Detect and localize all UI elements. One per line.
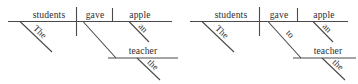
right-modifier-the-word: The bbox=[213, 23, 230, 40]
left-modifier-the-word: The bbox=[31, 23, 48, 40]
left-indirect-object-diagonal bbox=[83, 22, 116, 59]
left-verb-word: gave bbox=[86, 9, 105, 20]
right-verb-word: gave bbox=[270, 9, 289, 20]
sentence-diagram-figure: students gave apple teacher The an the bbox=[0, 0, 358, 84]
right-subject-word: students bbox=[215, 9, 248, 20]
right-prepositional-object-word: teacher bbox=[314, 45, 343, 56]
left-direct-object-word: apple bbox=[129, 9, 151, 20]
left-indirect-object-word: teacher bbox=[129, 45, 158, 56]
diagram-left: students gave apple teacher The an the bbox=[8, 7, 178, 80]
right-preposition-diagonal bbox=[268, 22, 301, 59]
diagram-right: students gave apple teacher to The an th… bbox=[190, 7, 356, 80]
right-preposition-word: to bbox=[284, 28, 297, 40]
diagram-canvas: students gave apple teacher The an the bbox=[0, 0, 358, 84]
left-modifier-the2-word: the bbox=[145, 57, 160, 72]
right-modifier-the2-word: the bbox=[330, 57, 345, 72]
right-direct-object-word: apple bbox=[313, 9, 335, 20]
right-modifier-an-word: an bbox=[320, 21, 334, 35]
left-subject-word: students bbox=[33, 9, 66, 20]
left-modifier-an-word: an bbox=[136, 21, 150, 35]
